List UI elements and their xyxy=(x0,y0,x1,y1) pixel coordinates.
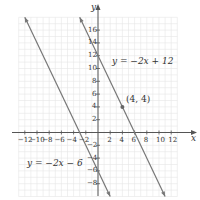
plot-area xyxy=(0,0,200,200)
y-tick-label: 12 xyxy=(88,51,97,59)
x-tick-label: 6 xyxy=(132,136,136,144)
y-tick-label: 2 xyxy=(92,115,96,123)
x-tick-label: 10 xyxy=(156,136,165,144)
y-axis-label: y xyxy=(91,2,96,12)
x-tick-label: 4 xyxy=(119,136,123,144)
x-tick-label: 2 xyxy=(107,136,111,144)
y-tick-label: −6 xyxy=(87,166,97,174)
y-tick-label: 16 xyxy=(88,26,97,34)
y-tick-label: 6 xyxy=(92,90,96,98)
x-tick-label: 12 xyxy=(168,136,177,144)
y-tick-label: −8 xyxy=(87,179,97,187)
y-tick-label: 8 xyxy=(92,77,96,85)
equation-label-2: y = −2x − 6 xyxy=(27,158,83,168)
x-tick-label: −6 xyxy=(54,136,64,144)
y-tick-label: 10 xyxy=(88,64,97,72)
y-tick-label: −4 xyxy=(87,154,97,162)
x-tick-label: −4 xyxy=(67,136,77,144)
equation-label-1: y = −2x + 12 xyxy=(112,56,173,66)
x-tick-label: −8 xyxy=(42,136,52,144)
graph: y x y = −2x + 12 y = −2x − 6 (4, 4) −12−… xyxy=(0,0,200,200)
y-tick-label: 4 xyxy=(92,102,96,110)
point-label: (4, 4) xyxy=(126,94,150,104)
y-tick-label: 14 xyxy=(88,38,97,46)
x-tick-label: 8 xyxy=(144,136,148,144)
x-axis-label: x xyxy=(191,133,196,143)
y-tick-label: −2 xyxy=(87,141,97,149)
